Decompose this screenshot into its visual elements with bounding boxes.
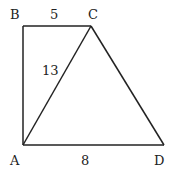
point-label-b: B <box>10 7 20 22</box>
point-label-c: C <box>88 7 98 22</box>
geometry-diagram: B 5 C 13 A 8 D <box>0 0 172 169</box>
point-label-a: A <box>9 153 20 168</box>
length-label-ac: 13 <box>42 63 59 78</box>
length-label-bc: 5 <box>50 7 58 22</box>
length-label-ad: 8 <box>81 153 89 168</box>
segment-ca <box>23 26 91 145</box>
segment-cd <box>91 26 164 145</box>
point-label-d: D <box>154 153 164 168</box>
